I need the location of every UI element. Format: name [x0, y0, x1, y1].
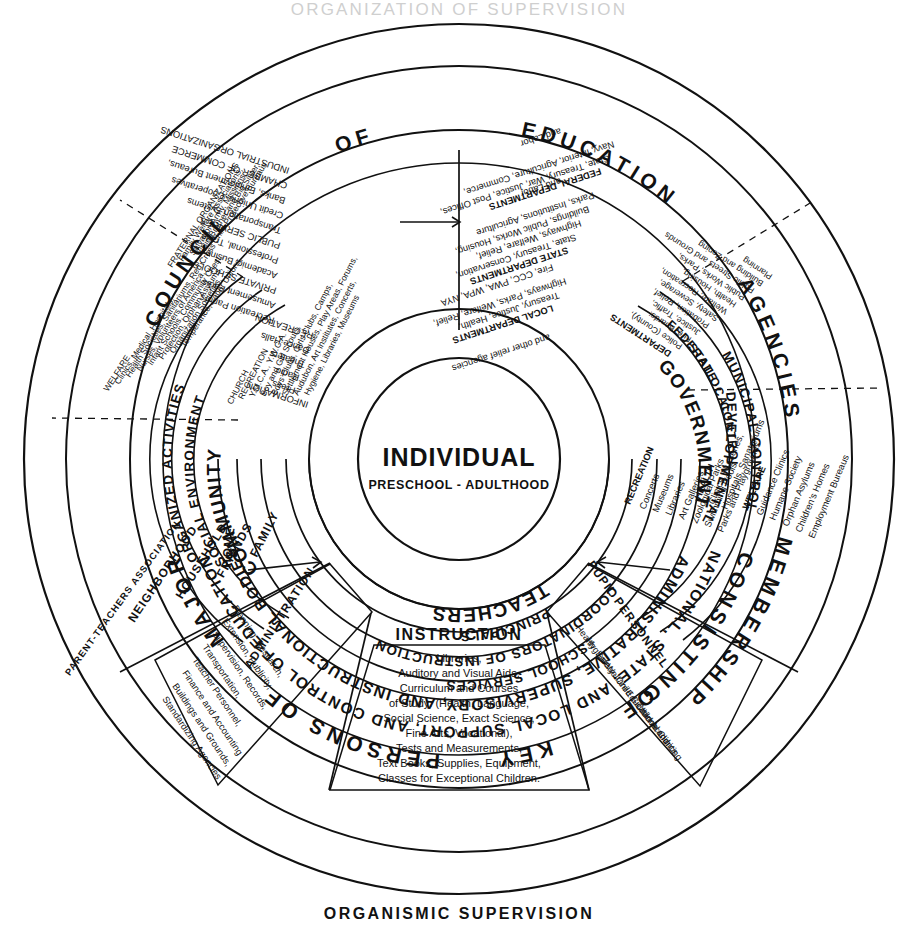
core-group: INDIVIDUAL PRESCHOOL - ADULTHOOD	[368, 443, 549, 492]
instruction-line: of Study: (Health, Language,	[389, 697, 529, 709]
diagram-stage: ORGANIZATION OF SUPERVISION	[0, 0, 918, 948]
instruction-line: Libraries,	[436, 652, 481, 664]
instruction-line: Curriculum and Courses	[400, 682, 519, 694]
organismic-supervision-wheel: COUNCIL OF EDUCATION MEMBERSHIP AGENCIES…	[0, 0, 918, 900]
municipal-departments-items: Police (County), Fire, Boards: Justice, …	[627, 230, 774, 352]
instruction-detail: Libraries, Auditory and Visual Aids, Cur…	[377, 652, 541, 784]
outer-arc-of: OF	[331, 123, 376, 157]
division-label-instruction: INSTRUCTION	[396, 626, 523, 643]
instruction-line: Classes for Exceptional Children.	[378, 772, 540, 784]
footer-title: ORGANISMIC SUPERVISION	[0, 905, 918, 923]
instruction-line: Text Books, Supplies, Equipment,	[377, 757, 541, 769]
core-title: INDIVIDUAL	[382, 443, 535, 471]
instruction-line: Auditory and Visual Aids,	[398, 667, 519, 679]
instruction-line: Tests and Measurements,	[396, 742, 522, 754]
cropped-top-title: ORGANIZATION OF SUPERVISION	[0, 0, 918, 18]
core-subtitle: PRESCHOOL - ADULTHOOD	[368, 478, 549, 492]
instruction-line: Social Science, Exact Science,	[383, 712, 534, 724]
instruction-line: Fine Arts, Vocational),	[406, 727, 513, 739]
subsector-parent-teachers: PARENT-TEACHERS ASSOCIATION	[62, 519, 182, 678]
pupil-line: Child Accounting	[633, 700, 685, 762]
